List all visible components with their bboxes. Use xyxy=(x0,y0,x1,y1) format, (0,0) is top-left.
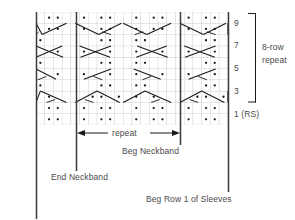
row-label-3: 3 xyxy=(234,86,239,96)
row-label-7: 7 xyxy=(234,40,239,50)
eight-row-repeat-label-line1: 8-row xyxy=(262,42,284,52)
chart-canvas: 9 7 5 3 1 (RS) 8-row repeat repeat Beg N… xyxy=(0,0,295,220)
chart-grid xyxy=(36,12,228,125)
end-neckband-label: End Neckband xyxy=(51,172,108,182)
repeat-arrow-label: repeat xyxy=(112,128,137,138)
row-label-5: 5 xyxy=(234,63,239,73)
beg-row1-sleeves-label: Beg Row 1 of Sleeves xyxy=(146,194,232,204)
beg-neckband-label: Beg Neckband xyxy=(122,146,179,156)
eight-row-repeat-label-line2: repeat xyxy=(262,55,287,65)
row-label-1: 1 (RS) xyxy=(234,109,259,119)
row-label-9: 9 xyxy=(234,18,239,28)
